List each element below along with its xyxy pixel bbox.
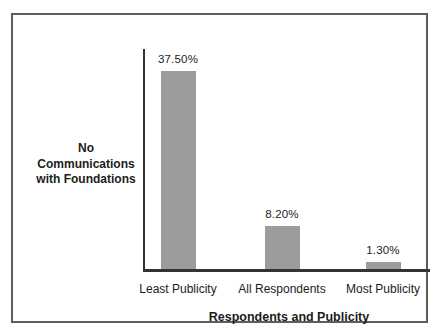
category-label-most-publicity: Most Publicity — [328, 282, 438, 296]
bar-group-most-publicity: 1.30% — [338, 45, 428, 269]
category-label-least-publicity: Least Publicity — [123, 282, 233, 296]
figure-page: No Communications with Foundations 37.50… — [0, 0, 441, 335]
x-axis-title: Respondents and Publicity — [144, 310, 434, 324]
value-label: 1.30% — [366, 244, 400, 256]
bar-group-all-respondents: 8.20% — [237, 45, 327, 269]
category-label-all-respondents: All Respondents — [227, 282, 337, 296]
bar — [366, 262, 401, 269]
x-axis-line — [143, 269, 430, 272]
bar — [161, 71, 196, 269]
value-label: 8.20% — [265, 208, 299, 220]
bar-group-least-publicity: 37.50% — [133, 45, 223, 269]
value-label: 37.50% — [158, 53, 198, 65]
y-axis-label: No Communications with Foundations — [27, 141, 145, 188]
bar — [265, 226, 300, 269]
figure-frame: No Communications with Foundations 37.50… — [11, 13, 428, 323]
